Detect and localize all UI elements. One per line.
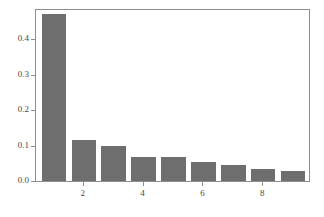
- y-tick-mark: [31, 146, 35, 147]
- y-tick-mark: [31, 75, 35, 76]
- x-tick-mark: [143, 182, 144, 186]
- y-tick-mark: [31, 110, 35, 111]
- x-axis: 2468: [0, 182, 324, 217]
- y-tick-mark: [31, 39, 35, 40]
- bar: [101, 146, 126, 181]
- bar: [221, 165, 246, 181]
- bar-chart: 0.00.10.20.30.4 2468: [0, 0, 324, 217]
- bar: [191, 162, 216, 181]
- bar: [72, 140, 97, 181]
- bar: [161, 157, 186, 181]
- plot-area: [35, 9, 310, 182]
- x-tick-mark: [202, 182, 203, 186]
- x-tick-label: 6: [192, 188, 212, 198]
- x-tick-mark: [83, 182, 84, 186]
- y-tick-label: 0.1: [18, 140, 29, 150]
- bar: [251, 169, 276, 181]
- bars-layer: [36, 10, 309, 181]
- y-tick-label: 0.4: [18, 33, 29, 43]
- y-tick-label: 0.3: [18, 69, 29, 79]
- bar: [131, 157, 156, 181]
- bar: [281, 171, 306, 181]
- x-tick-label: 2: [73, 188, 93, 198]
- x-tick-label: 8: [252, 188, 272, 198]
- x-tick-mark: [262, 182, 263, 186]
- bar: [42, 14, 67, 181]
- x-tick-label: 4: [133, 188, 153, 198]
- y-tick-label: 0.2: [18, 104, 29, 114]
